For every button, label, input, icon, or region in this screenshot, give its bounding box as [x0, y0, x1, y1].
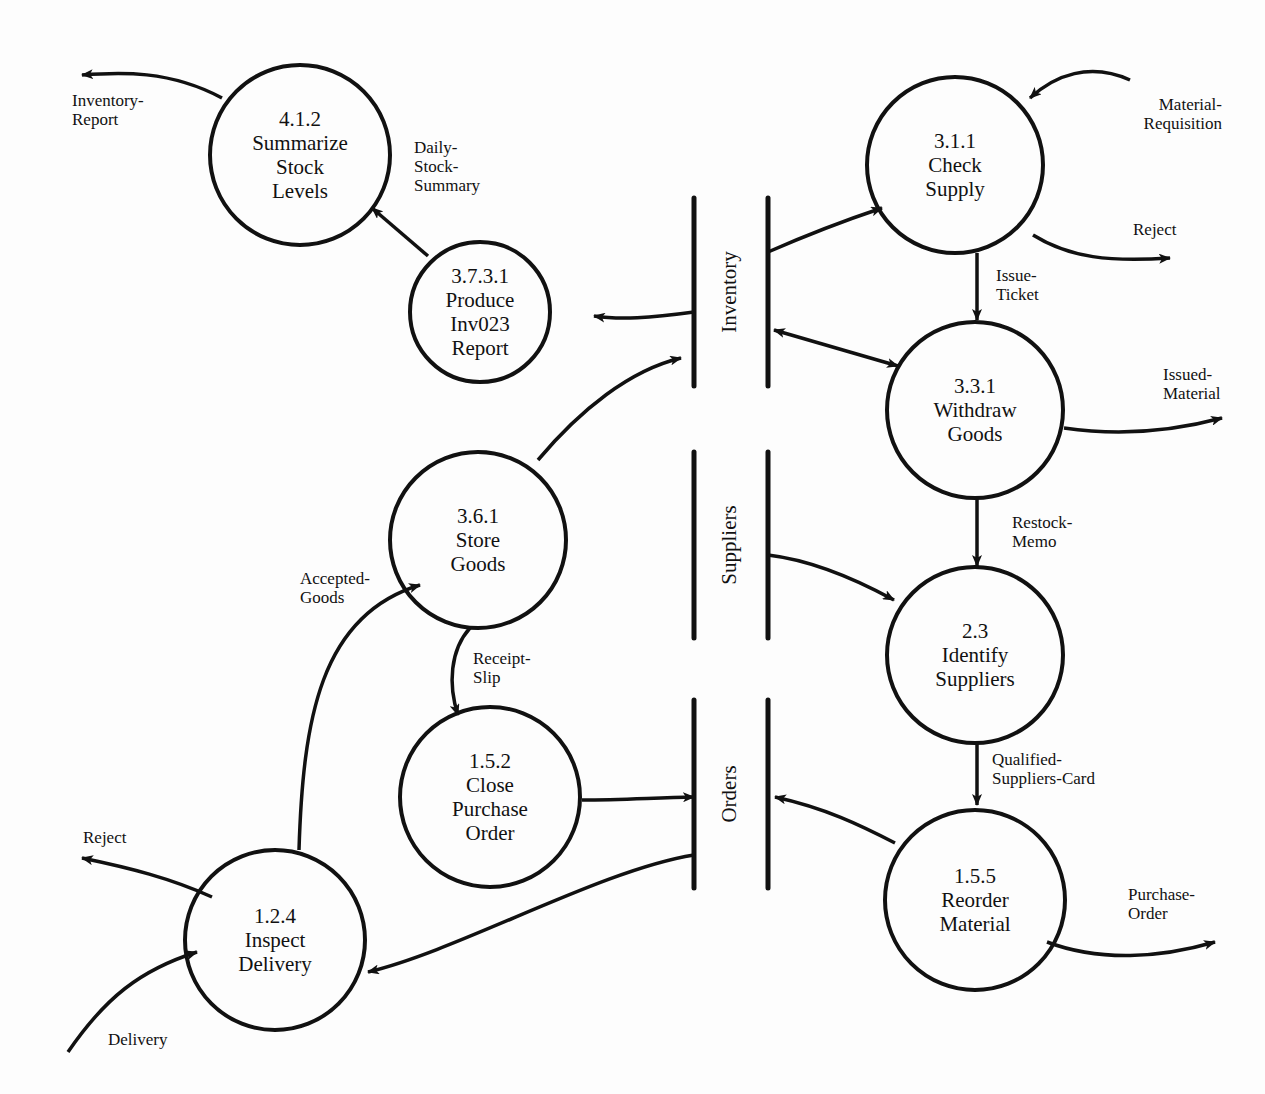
flow-label: Material-Requisition	[1144, 95, 1223, 133]
flow-arrow	[372, 208, 428, 256]
data-flow: Delivery	[68, 952, 197, 1052]
flow-arrow	[768, 555, 894, 600]
data-stores: InventorySuppliersOrders	[694, 198, 768, 888]
process-1-5-5: 1.5.5ReorderMaterial	[885, 810, 1065, 990]
data-flow: Restock-Memo	[977, 498, 1073, 566]
flow-label: Receipt-Slip	[473, 649, 531, 687]
data-flow-diagram: Inventory-ReportDaily-Stock-SummaryMater…	[0, 0, 1265, 1094]
process-2-3: 2.3IdentifySuppliers	[887, 567, 1063, 743]
flow-label: Reject	[1133, 220, 1177, 239]
flow-arrow	[368, 855, 694, 972]
process-1-5-2: 1.5.2ClosePurchaseOrder	[400, 707, 580, 887]
flow-arrow	[594, 312, 694, 318]
process-4-1-2: 4.1.2SummarizeStockLevels	[210, 65, 390, 245]
data-flow: Issue-Ticket	[977, 253, 1039, 320]
process-3-1-1: 3.1.1CheckSupply	[867, 77, 1043, 253]
flow-label: Inventory-Report	[72, 91, 144, 129]
store-label: Suppliers	[717, 505, 741, 584]
data-flow: Reject	[82, 828, 212, 897]
flow-arrow	[768, 208, 882, 252]
process-label: 2.3IdentifySuppliers	[935, 619, 1014, 691]
store-label: Orders	[717, 765, 741, 822]
data-store-suppliers: Suppliers	[694, 452, 768, 638]
data-flow: Material-Requisition	[1030, 72, 1222, 133]
data-flow	[594, 312, 694, 318]
process-label: 3.3.1WithdrawGoods	[933, 374, 1017, 446]
data-flow: Reject	[1033, 220, 1177, 259]
flow-label: Delivery	[108, 1030, 168, 1049]
process-label: 1.5.2ClosePurchaseOrder	[452, 749, 528, 845]
data-flow: Purchase-Order	[1047, 885, 1215, 956]
store-label: Inventory	[717, 251, 741, 333]
flow-label: Reject	[83, 828, 127, 847]
flow-label: Daily-Stock-Summary	[414, 138, 481, 195]
data-flows: Inventory-ReportDaily-Stock-SummaryMater…	[68, 72, 1222, 1052]
process-3-3-1: 3.3.1WithdrawGoods	[887, 322, 1063, 498]
data-flow	[538, 358, 681, 460]
data-store-inventory: Inventory	[694, 198, 768, 386]
data-flow: Receipt-Slip	[452, 628, 531, 715]
process-1-2-4: 1.2.4InspectDelivery	[185, 850, 365, 1030]
process-label: 1.5.5ReorderMaterial	[939, 864, 1010, 936]
flow-arrow	[774, 330, 898, 366]
flow-arrow	[82, 858, 212, 897]
flow-label: Issued-Material	[1163, 365, 1221, 403]
flow-label: Qualified-Suppliers-Card	[992, 750, 1095, 788]
process-label: 3.7.3.1ProduceInv023Report	[446, 264, 515, 360]
data-flow: Qualified-Suppliers-Card	[977, 743, 1095, 805]
flow-label: Issue-Ticket	[996, 266, 1039, 304]
flow-arrow	[1064, 418, 1222, 432]
data-flow	[368, 855, 694, 972]
flow-arrow	[452, 628, 470, 715]
process-3-6-1: 3.6.1StoreGoods	[390, 452, 566, 628]
process-label: 3.1.1CheckSupply	[925, 129, 985, 201]
data-flow	[774, 330, 898, 366]
flow-arrow	[582, 797, 694, 800]
flow-label: Purchase-Order	[1128, 885, 1195, 923]
process-3-7-3-1: 3.7.3.1ProduceInv023Report	[410, 242, 550, 382]
flow-arrow	[1030, 72, 1130, 98]
diagram-svg: Inventory-ReportDaily-Stock-SummaryMater…	[0, 0, 1265, 1094]
data-flow: Issued-Material	[1064, 365, 1222, 432]
data-flow	[775, 797, 895, 843]
flow-label: Restock-Memo	[1012, 513, 1073, 551]
data-flow	[768, 555, 894, 600]
flow-arrow	[1047, 942, 1215, 956]
process-label: 3.6.1StoreGoods	[451, 504, 506, 576]
data-flow	[768, 208, 882, 252]
data-flow: Inventory-Report	[72, 73, 222, 129]
data-store-orders: Orders	[694, 700, 768, 888]
data-flow	[582, 797, 694, 800]
processes: 4.1.2SummarizeStockLevels3.7.3.1ProduceI…	[185, 65, 1065, 1030]
process-label: 1.2.4InspectDelivery	[238, 904, 312, 976]
flow-arrow	[775, 797, 895, 843]
flow-arrow	[538, 358, 681, 460]
flow-label: Accepted-Goods	[300, 569, 370, 607]
process-label: 4.1.2SummarizeStockLevels	[252, 107, 348, 203]
